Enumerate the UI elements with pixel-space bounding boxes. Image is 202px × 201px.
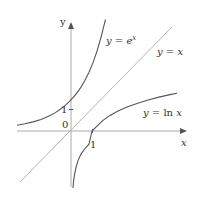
origin-label: 0 bbox=[62, 119, 68, 130]
identity-line bbox=[20, 27, 172, 182]
y-axis-arrow-icon bbox=[68, 22, 74, 29]
y-axis bbox=[68, 22, 74, 187]
graph-figure: y x 0 1 1 y = ex y = x y = ln x bbox=[0, 0, 202, 201]
x-axis-arrow-icon bbox=[180, 128, 187, 134]
y-axis-label: y bbox=[59, 16, 66, 27]
exp-label: y = ex bbox=[105, 34, 136, 46]
identity-label: y = x bbox=[156, 46, 183, 57]
log-label: y = ln x bbox=[142, 107, 182, 118]
x-axis bbox=[17, 128, 187, 134]
y-tick-label: 1 bbox=[61, 104, 67, 115]
x-axis-label: x bbox=[181, 137, 187, 148]
x-tick-label: 1 bbox=[90, 139, 96, 150]
